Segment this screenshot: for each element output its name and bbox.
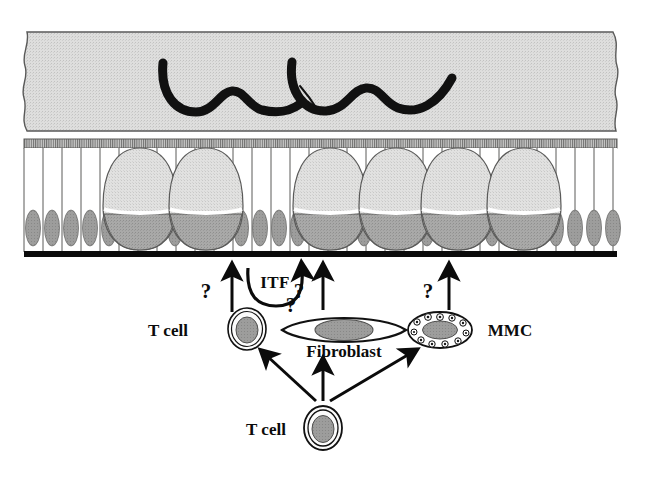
goblet-cell-6: [487, 148, 561, 250]
goblet-cell-1: [103, 148, 177, 250]
arrow-t-cell-lower-to-t-cell-upper: [266, 355, 316, 401]
question-mark-t-cell: ?: [201, 279, 212, 303]
microvilli-band: [24, 139, 617, 148]
mucosal-mast-cell: [408, 312, 472, 348]
t-cell-lower: [304, 406, 342, 450]
goblet-cell-2: [169, 148, 243, 250]
mucus-band: [23, 32, 618, 131]
fibroblast: [282, 318, 406, 342]
question-mark-mmc: ?: [423, 279, 434, 303]
label-mmc: MMC: [488, 321, 532, 340]
label-fibroblast: Fibroblast: [306, 342, 382, 361]
mucus-layer: [23, 32, 618, 131]
epithelial-layer: [24, 148, 621, 252]
t-cell-upper: [228, 308, 266, 350]
goblet-cell-5: [421, 148, 495, 250]
mucosal-immunity-diagram: T cell Fibroblast MMC T cell ITF ? ? ? ?: [0, 0, 649, 477]
question-mark-fibroblast: ?: [294, 279, 305, 303]
goblet-cell-3: [293, 148, 367, 250]
label-itf: ITF: [260, 273, 290, 292]
figure-canvas: T cell Fibroblast MMC T cell ITF ? ? ? ?: [0, 0, 649, 477]
label-t-cell-lower: T cell: [246, 420, 286, 439]
basement-membrane: [24, 251, 617, 257]
brush-border: [24, 139, 617, 148]
label-t-cell-upper: T cell: [148, 321, 188, 340]
